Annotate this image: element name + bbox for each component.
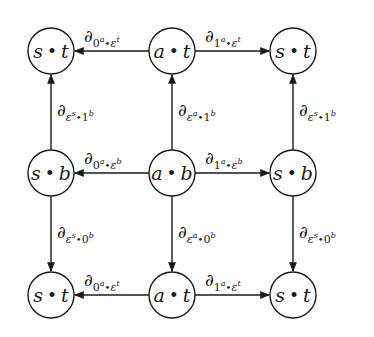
- node-var-right: t: [61, 284, 69, 306]
- node-a-t-bot: a•t: [149, 272, 195, 318]
- node-var-right: t: [183, 40, 191, 62]
- node-var-right: t: [303, 284, 311, 306]
- node-var-left: a: [151, 162, 162, 184]
- node-s-b-mid-right: s•b: [270, 150, 316, 196]
- node-var-right: t: [183, 284, 191, 306]
- node-var-right: b: [181, 162, 193, 184]
- node-var-left: s: [273, 162, 283, 184]
- bullet-icon: •: [287, 163, 297, 183]
- bullet-icon: •: [47, 41, 57, 61]
- node-var-left: s: [33, 40, 43, 62]
- node-var-left: s: [31, 162, 41, 184]
- bullet-icon: •: [289, 41, 299, 61]
- bullet-icon: •: [167, 163, 177, 183]
- label-down-right: ∂εs•0b: [299, 224, 336, 241]
- label-bot-right: ∂1a•εt: [205, 272, 241, 289]
- label-top-left: ∂0a•εt: [84, 28, 120, 45]
- node-var-left: a: [154, 284, 165, 306]
- label-bot-left: ∂0a•εt: [84, 272, 120, 289]
- node-s-b-mid-left: s•b: [28, 150, 74, 196]
- node-var-left: s: [275, 40, 285, 62]
- node-s-t-top-left: s•t: [28, 28, 74, 74]
- node-var-right: t: [303, 40, 311, 62]
- node-var-right: b: [59, 162, 71, 184]
- bullet-icon: •: [169, 41, 179, 61]
- bullet-icon: •: [289, 285, 299, 305]
- bullet-icon: •: [169, 285, 179, 305]
- node-var-left: s: [33, 284, 43, 306]
- label-up-left: ∂εs•1b: [57, 102, 94, 119]
- node-var-left: s: [275, 284, 285, 306]
- label-top-right: ∂1a•εt: [205, 28, 241, 45]
- label-up-right: ∂εs•1b: [299, 102, 336, 119]
- node-s-t-bot-left: s•t: [28, 272, 74, 318]
- label-down-left: ∂εs•0b: [57, 224, 94, 241]
- node-a-t-top: a•t: [149, 28, 195, 74]
- node-var-right: b: [301, 162, 313, 184]
- node-var-right: t: [61, 40, 69, 62]
- label-down-mid: ∂εa•0b: [178, 224, 216, 241]
- label-mid-left: ∂0a•εb: [84, 150, 122, 167]
- node-s-t-bot-right: s•t: [270, 272, 316, 318]
- node-var-left: a: [154, 40, 165, 62]
- bullet-icon: •: [47, 285, 57, 305]
- node-a-b-center: a•b: [149, 150, 195, 196]
- bullet-icon: •: [45, 163, 55, 183]
- label-up-mid: ∂εa•1b: [178, 102, 216, 119]
- label-mid-right: ∂1a•εb: [205, 150, 243, 167]
- diagram-canvas: s•t a•t s•t s•b a•b s•b s•t a•t s•t ∂0a•…: [0, 0, 374, 337]
- node-s-t-top-right: s•t: [270, 28, 316, 74]
